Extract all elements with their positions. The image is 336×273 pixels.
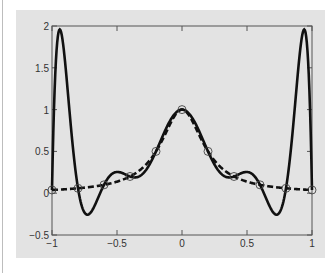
x-tick-label: 1	[309, 238, 315, 249]
y-tick-label: −0.5	[29, 230, 49, 241]
runge-function-dashed-curve	[52, 110, 312, 190]
x-tick-label: −0.5	[107, 238, 127, 249]
y-tick-label: 1.5	[35, 63, 49, 74]
y-tick-label: 0.5	[35, 146, 49, 157]
axes-frame	[52, 26, 312, 235]
y-tick-label: 2	[43, 21, 49, 32]
y-tick-label: 0	[43, 188, 49, 199]
x-tick-label: 0.5	[240, 238, 254, 249]
x-tick-label: 0	[179, 238, 185, 249]
data-point-markers	[48, 106, 316, 194]
plot-curves	[52, 29, 312, 214]
axes-box	[52, 26, 312, 235]
y-tick-label: 1	[43, 105, 49, 116]
axis-ticks	[52, 26, 312, 235]
runge-interpolation-chart: −1−0.500.51−0.500.511.52	[0, 0, 336, 273]
